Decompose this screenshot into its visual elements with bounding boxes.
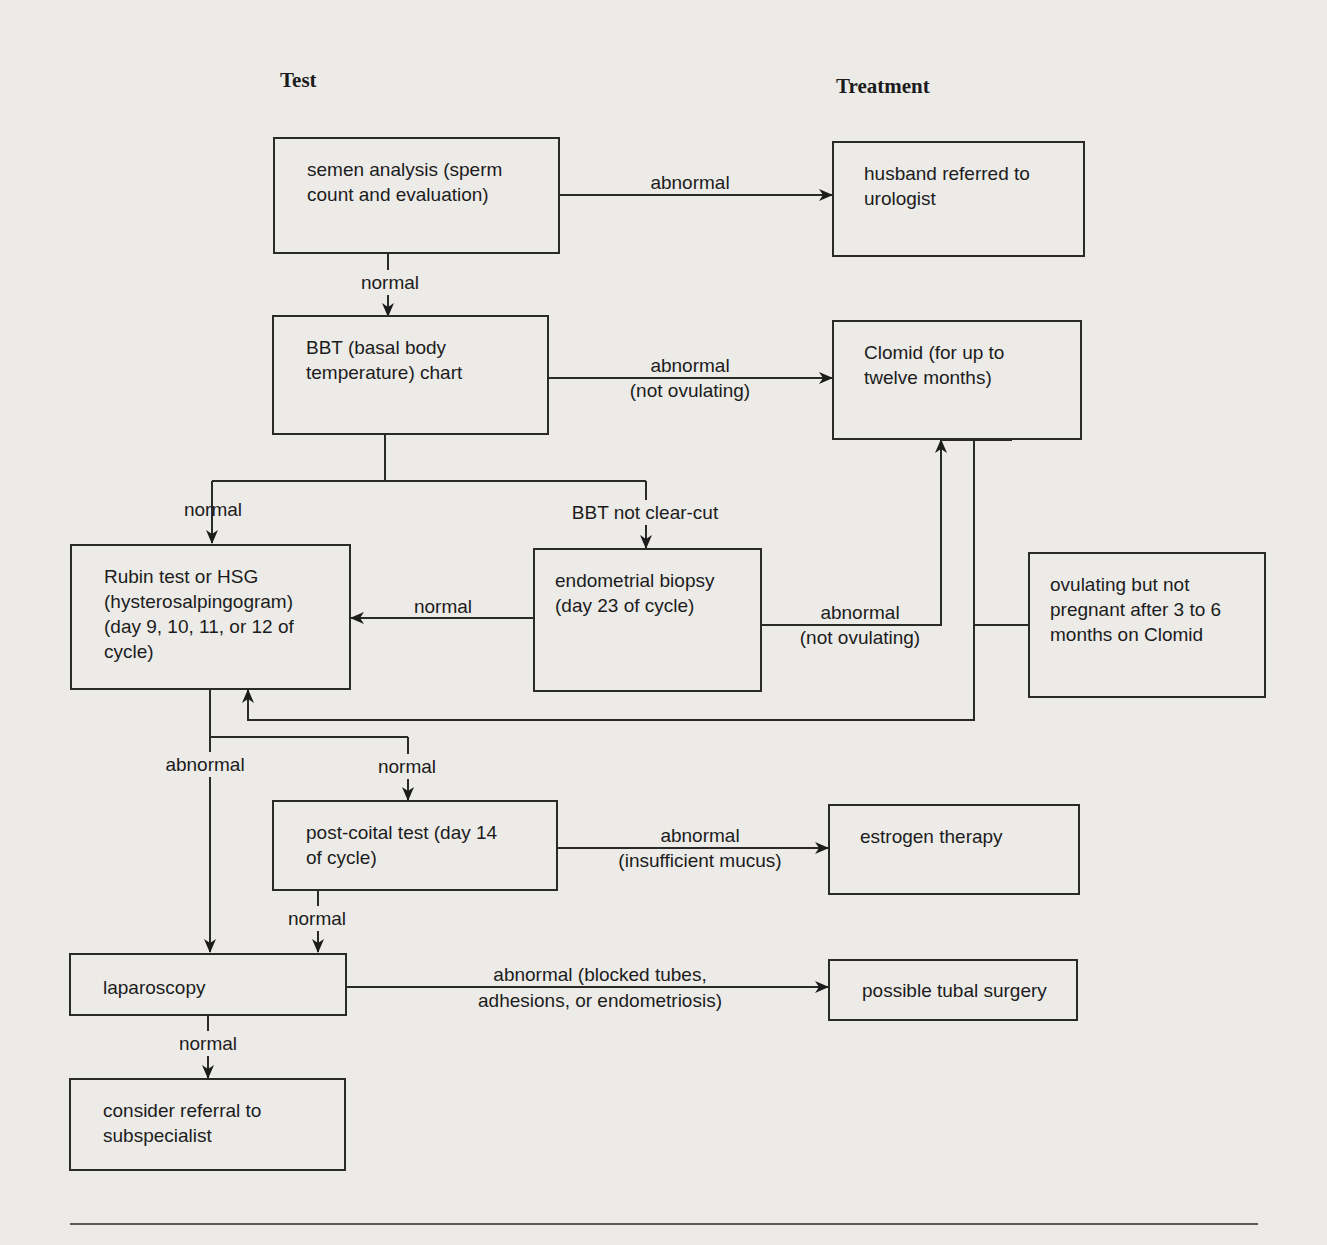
node-estrogen-therapy: estrogen therapy (828, 804, 1080, 895)
node-semen-analysis: semen analysis (sperm count and evaluati… (273, 137, 560, 254)
edge-label-hsg-abnormal: abnormal (150, 752, 260, 777)
edge-label-postcoital-normal: normal (272, 906, 362, 931)
edge-label-laparoscopy-abnormal: abnormal (blocked tubes, adhesions, or e… (430, 962, 770, 1014)
node-tubal-surgery: possible tubal surgery (828, 959, 1078, 1021)
edge-label-bbt-normal: normal (168, 497, 258, 522)
edge-label-biopsy-abnormal: abnormal (not ovulating) (775, 600, 945, 650)
node-ovulating-not-pregnant: ovulating but not pregnant after 3 to 6 … (1028, 552, 1266, 698)
edge-label-semen-abnormal: abnormal (620, 170, 760, 195)
edge-label-laparoscopy-normal: normal (163, 1031, 253, 1056)
node-endometrial-biopsy: endometrial biopsy (day 23 of cycle) (533, 548, 762, 692)
edge-label-postcoital-abnormal: abnormal (insufficient mucus) (590, 823, 810, 873)
column-header-treatment: Treatment (836, 74, 930, 99)
edge-label-hsg-normal: normal (362, 754, 452, 779)
node-clomid: Clomid (for up to twelve months) (832, 320, 1082, 440)
node-rubin-hsg: Rubin test or HSG (hysterosalpingogram) … (70, 544, 351, 690)
edge-label-bbt-abnormal: abnormal (not ovulating) (600, 353, 780, 403)
node-husband-referred: husband referred to urologist (832, 141, 1085, 257)
edge-label-semen-normal: normal (345, 270, 435, 295)
node-laparoscopy: laparoscopy (69, 953, 347, 1016)
node-bbt-chart: BBT (basal body temperature) chart (272, 315, 549, 435)
edge-label-biopsy-normal: normal (398, 594, 488, 619)
edge-label-bbt-not-clear: BBT not clear-cut (555, 500, 735, 525)
node-subspecialist: consider referral to subspecialist (69, 1078, 346, 1171)
node-post-coital-test: post-coital test (day 14 of cycle) (272, 800, 558, 891)
column-header-test: Test (280, 68, 317, 93)
